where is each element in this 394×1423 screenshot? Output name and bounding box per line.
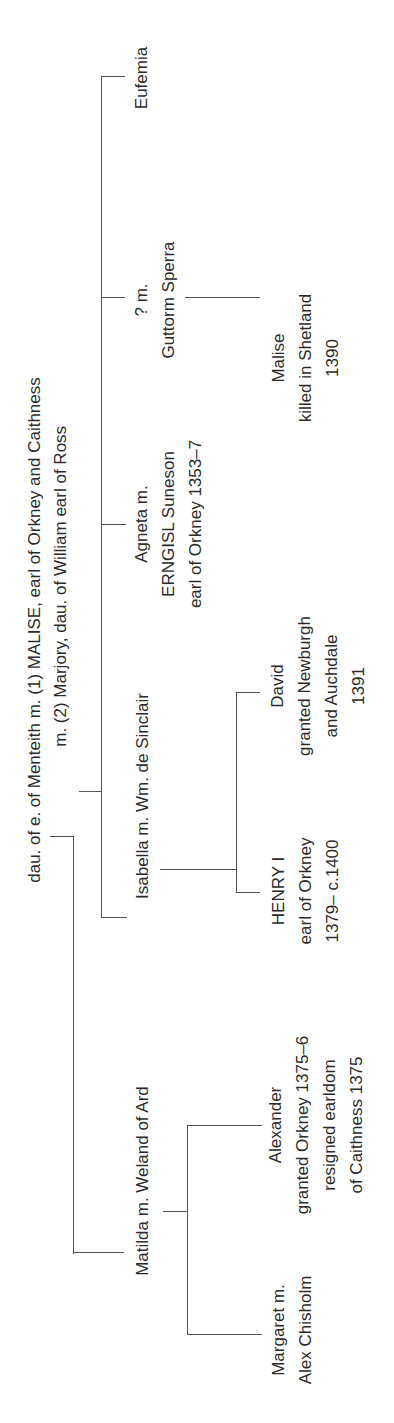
- matilda-children-spine: [187, 1125, 188, 1335]
- person-david: David granted Newburgh and Auchdale 1391: [264, 616, 372, 756]
- isabella-children-spine: [236, 692, 237, 893]
- second-marriage-tick: [79, 791, 102, 792]
- branch-guttorm: [101, 297, 125, 298]
- first-marriage-drop: [73, 836, 74, 1254]
- parents-label: dau. of e. of Menteith m. (1) MALISE, ea…: [22, 377, 74, 883]
- parents-line-1: dau. of e. of Menteith m. (1) MALISE, ea…: [22, 377, 48, 883]
- branch-david: [236, 692, 260, 693]
- parents-line-2: m. (2) Marjory, dau. of William earl of …: [48, 377, 74, 883]
- person-isabella: Isabella m. Wm. de Sinclair: [129, 693, 156, 899]
- sibling-spine: [101, 76, 102, 918]
- first-marriage-tick: [50, 836, 74, 837]
- branch-isabella: [101, 917, 127, 918]
- person-eufemia: Eufemia: [128, 47, 155, 109]
- branch-agneta: [101, 524, 126, 525]
- person-unknown-m-guttorm: ? m. Guttorm Sperra: [128, 241, 182, 358]
- branch-eufemia: [101, 76, 125, 77]
- branch-alexander: [187, 1125, 262, 1126]
- person-alexander: Alexander granted Orkney 1375–6 resigned…: [262, 1036, 370, 1215]
- link-matilda-children: [163, 1211, 187, 1212]
- person-matilda: Matilda m. Weland of Ard: [129, 1086, 156, 1276]
- branch-matilda: [73, 1252, 124, 1253]
- person-agneta: Agneta m. ERNGISL Suneson earl of Orkney…: [128, 440, 209, 608]
- branch-margaret: [187, 1334, 262, 1335]
- person-margaret: Margaret m. Alex Chisholm: [265, 1276, 319, 1385]
- link-isabella-children: [160, 869, 237, 870]
- person-malise-jr: Malise killed in Shetland 1390: [265, 294, 346, 423]
- person-henry: HENRY I earl of Orkney 1379– c.1400: [265, 838, 346, 945]
- link-guttorm-malise: [185, 297, 260, 298]
- genealogy-diagram: dau. of e. of Menteith m. (1) MALISE, ea…: [0, 0, 394, 1423]
- branch-henry: [236, 892, 260, 893]
